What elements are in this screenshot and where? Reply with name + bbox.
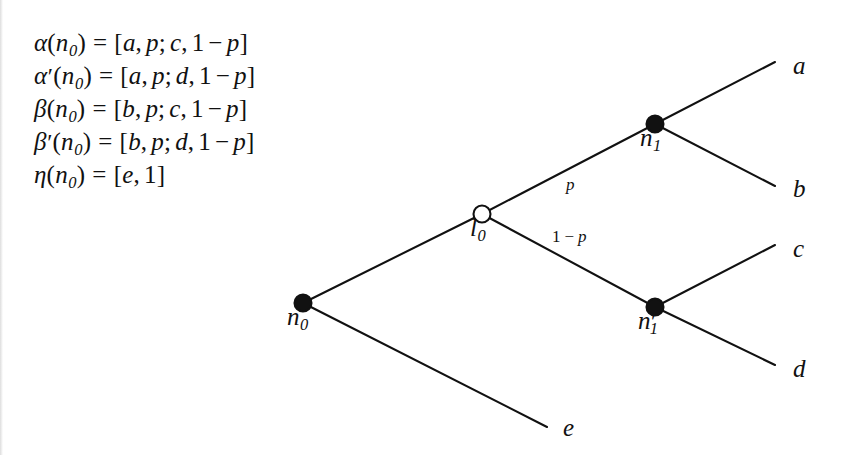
- tree-edges-svg: [0, 0, 850, 455]
- minus-sign: −: [565, 227, 575, 246]
- terminal-label-e: e: [563, 414, 574, 442]
- terminal-label-text: e: [563, 414, 574, 441]
- terminal-label-text: b: [793, 175, 806, 202]
- terminal-label-text: a: [793, 52, 806, 79]
- node-label-text: n: [287, 303, 300, 330]
- terminal-label-c: c: [793, 235, 804, 263]
- terminal-label-d: d: [793, 355, 806, 383]
- node-label-sub: 1: [653, 136, 662, 155]
- node-label-sub: 1: [649, 319, 658, 338]
- tree-edge-l0-n1: [482, 124, 655, 214]
- terminal-label-text: c: [793, 235, 804, 262]
- terminal-label-a: a: [793, 52, 806, 80]
- edge-label-p: p: [578, 227, 587, 246]
- node-label-n0: n0: [287, 303, 308, 335]
- terminal-label-b: b: [793, 175, 806, 203]
- node-label-sub: 0: [300, 315, 309, 334]
- tree-edge-n1p-d: [655, 307, 775, 365]
- tree-edge-n1-a: [655, 62, 775, 124]
- node-label-n1-prime: n′1: [638, 307, 658, 339]
- figure-canvas: α(n0)=[a,p;c,1−p] α′(n0)=[a,p;d,1−p] β(n…: [0, 0, 850, 455]
- node-label-l0: l0: [470, 214, 486, 246]
- tree-diagram: n0 l0 n1 n′1 a b c d e p: [0, 0, 850, 455]
- node-label-text: l: [470, 214, 477, 241]
- node-label-text: n: [640, 124, 653, 151]
- node-label-n1: n1: [640, 124, 661, 156]
- tree-edge-n1p-c: [655, 245, 775, 307]
- node-label-sub: 0: [477, 226, 486, 245]
- edge-label-1-minus-p: 1−p: [552, 227, 587, 247]
- tree-edge-n0-l0: [303, 214, 482, 303]
- edge-group: [303, 62, 775, 427]
- tree-edge-n1-b: [655, 124, 775, 186]
- edge-label-one: 1: [552, 227, 561, 246]
- tree-edge-n0-e: [303, 303, 547, 427]
- edge-label-text: p: [566, 175, 575, 194]
- terminal-label-text: d: [793, 355, 806, 382]
- edge-label-p: p: [566, 175, 575, 195]
